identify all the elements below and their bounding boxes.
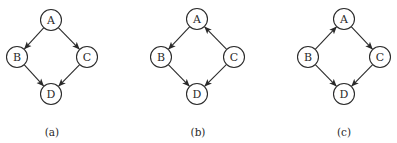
diagram-canvas: ABCDABCDABCD (a)(b)(c) (0, 0, 397, 143)
edge-a-to-c (58, 28, 79, 50)
diagram-c (315, 27, 372, 86)
node-d: D (334, 84, 355, 105)
node-d: D (187, 84, 208, 105)
node-d: D (41, 84, 62, 105)
captions-layer: (a)(b)(c) (45, 126, 351, 138)
edge-a-to-b (169, 27, 190, 49)
edge-c-to-d (205, 64, 227, 86)
node-c: C (77, 47, 98, 68)
node-label: D (47, 88, 56, 101)
node-b: B (151, 47, 172, 68)
node-a: A (41, 10, 62, 31)
edge-b-to-a (315, 27, 336, 49)
node-label: D (193, 88, 202, 101)
node-label: A (192, 13, 202, 26)
node-a: A (334, 9, 355, 30)
edge-c-to-d (352, 65, 373, 87)
node-b: B (298, 47, 319, 68)
edge-c-to-a (205, 27, 227, 50)
edge-a-to-b (24, 28, 43, 49)
diagram-caption: (b) (191, 126, 206, 138)
node-label: B (157, 51, 165, 64)
edge-b-to-d (315, 65, 336, 87)
node-a: A (187, 9, 208, 30)
node-label: C (83, 51, 91, 64)
edge-c-to-d (59, 65, 80, 87)
node-label: C (230, 51, 238, 64)
diagram-a (24, 28, 80, 87)
diagram-b (168, 27, 226, 87)
node-label: A (339, 13, 349, 26)
node-c: C (370, 47, 391, 68)
diagram-caption: (c) (337, 126, 351, 138)
node-c: C (224, 47, 245, 68)
node-label: B (13, 51, 21, 64)
node-label: A (46, 14, 56, 27)
nodes-layer: ABCDABCDABCD (7, 9, 391, 105)
diagram-caption: (a) (45, 126, 59, 138)
node-label: C (376, 51, 384, 64)
node-label: B (304, 51, 312, 64)
edge-b-to-d (24, 65, 43, 86)
node-label: D (340, 88, 349, 101)
node-b: B (7, 47, 28, 68)
edge-b-to-d (168, 65, 189, 87)
edge-a-to-c (351, 27, 372, 49)
